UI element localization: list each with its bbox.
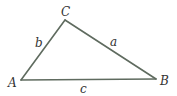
vertex-label-b: B bbox=[159, 74, 169, 88]
side-c bbox=[21, 79, 156, 80]
triangle-figure: A B C a b c bbox=[0, 0, 177, 96]
vertex-label-c: C bbox=[61, 5, 70, 19]
side-a bbox=[65, 20, 156, 79]
side-label-b: b bbox=[35, 36, 43, 50]
side-label-c: c bbox=[80, 82, 87, 96]
vertex-label-a: A bbox=[7, 76, 17, 90]
side-label-a: a bbox=[110, 35, 117, 49]
triangle-diagram: A B C a b c bbox=[0, 0, 177, 96]
side-b bbox=[21, 20, 65, 80]
